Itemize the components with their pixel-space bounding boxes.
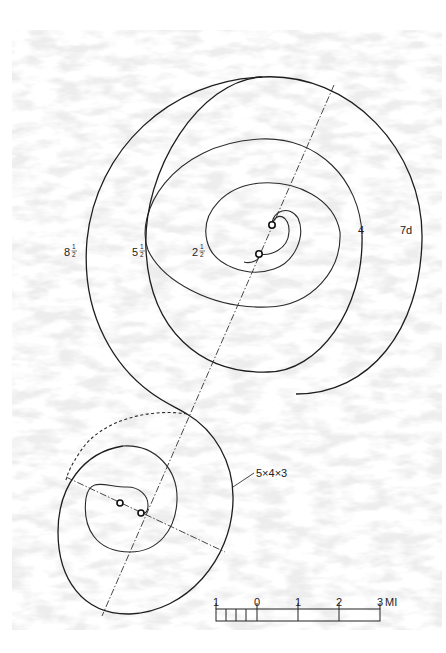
spiral-diagram: 8 1 2 5 1 2 2 1 2 4 7d 5×4×3 1 0 1 2 3	[0, 0, 446, 653]
label-2-half-whole: 2	[192, 246, 198, 258]
label-8-half-whole: 8	[64, 246, 70, 258]
scale-tick-0: 0	[254, 596, 260, 608]
scale-tick-3: 3	[377, 596, 383, 608]
lower-marker-a	[117, 500, 123, 506]
label-2-half-den: 2	[200, 251, 204, 258]
label-4: 4	[358, 224, 364, 236]
label-5-half-num: 1	[140, 243, 144, 250]
label-5-half-whole: 5	[132, 246, 138, 258]
label-5x4x3: 5×4×3	[256, 467, 287, 479]
upper-marker-b	[256, 251, 262, 257]
scale-tick-2: 2	[336, 596, 342, 608]
label-5-half-den: 2	[140, 251, 144, 258]
scale-tick-1-left: 1	[213, 596, 219, 608]
scale-tick-1: 1	[295, 596, 301, 608]
label-8-half-den: 2	[72, 251, 76, 258]
upper-marker-a	[269, 222, 275, 228]
label-7d: 7d	[400, 224, 412, 236]
label-2-half-num: 1	[200, 243, 204, 250]
scale-unit: MI	[385, 596, 397, 608]
label-8-half-num: 1	[72, 243, 76, 250]
lower-marker-b	[138, 510, 144, 516]
